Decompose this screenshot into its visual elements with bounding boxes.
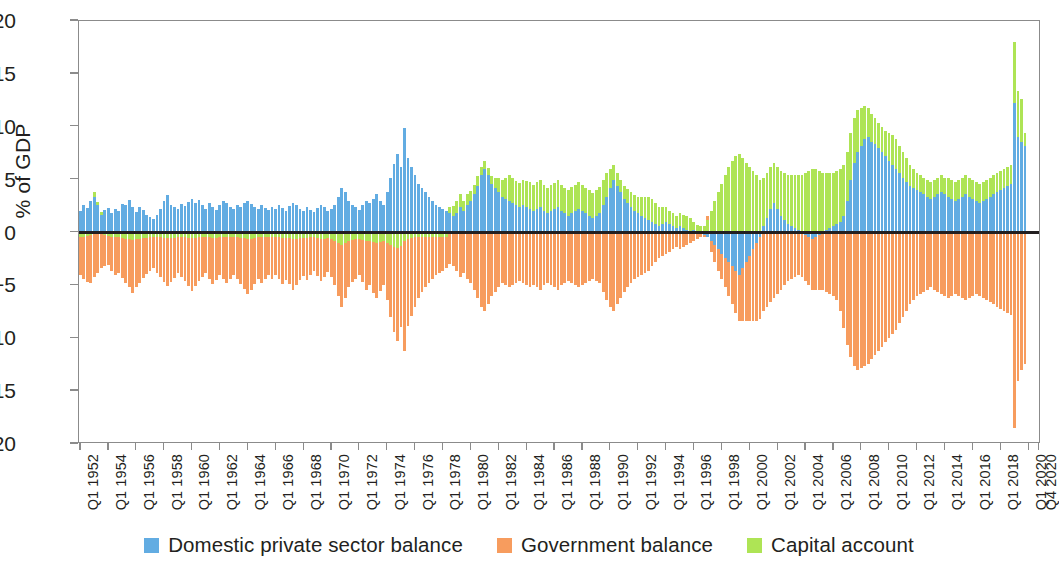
x-axis-tick-mark [693, 443, 694, 450]
y-axis-tick-mark [70, 284, 78, 285]
x-axis-tick-label: Q1 2016 [977, 454, 993, 510]
x-axis-tick-label: Q1 1974 [392, 454, 408, 510]
x-axis-tick-mark [135, 443, 136, 450]
x-axis-tick-mark [442, 443, 443, 450]
x-axis-tick-label: Q1 1980 [475, 454, 491, 510]
x-axis-tick-label: Q1 1970 [336, 454, 352, 510]
legend-item[interactable]: Domestic private sector balance [144, 533, 463, 557]
x-axis-tick-mark [386, 443, 387, 450]
x-axis-tick-label: Q1 2000 [754, 454, 770, 510]
y-axis-tick-mark [70, 442, 78, 443]
zero-baseline [79, 231, 1039, 233]
y-axis-tick-mark [70, 178, 78, 179]
x-axis-tick-mark [330, 443, 331, 450]
x-axis-tick-mark [944, 443, 945, 450]
x-axis-tick-mark [888, 443, 889, 450]
x-axis-tick-label: Q1 1978 [447, 454, 463, 510]
x-axis-tick-label: Q1 1966 [280, 454, 296, 510]
x-axis-tick-mark [219, 443, 220, 450]
x-axis-tick-label: Q1 2012 [921, 454, 937, 510]
y-axis-tick-label: −20 [0, 433, 16, 454]
y-axis-tick-label: 20 [0, 10, 16, 31]
chart-legend: Domestic private sector balanceGovernmen… [0, 533, 1058, 557]
y-axis-tick-mark [70, 337, 78, 338]
x-axis-tick-label: Q1 1976 [420, 454, 436, 510]
y-axis-tick-mark [70, 72, 78, 73]
x-axis-tick-mark [1028, 443, 1029, 450]
x-axis-tick-label: Q4 2020 [1043, 454, 1059, 510]
x-axis-tick-mark [303, 443, 304, 450]
y-axis-tick-mark [70, 389, 78, 390]
x-axis-tick-mark [553, 443, 554, 450]
x-axis-tick-mark [358, 443, 359, 450]
y-axis-tick-mark [70, 231, 78, 232]
y-axis-tick-label: 10 [0, 115, 16, 136]
legend-label: Domestic private sector balance [168, 533, 463, 557]
y-axis-tick-label: −5 [0, 274, 16, 295]
x-axis-tick-mark [1038, 443, 1039, 450]
x-axis-tick-mark [526, 443, 527, 450]
x-axis-tick-mark [498, 443, 499, 450]
x-axis-tick-label: Q1 1952 [85, 454, 101, 510]
x-axis-tick-label: Q1 1960 [196, 454, 212, 510]
x-axis-tick-mark [1000, 443, 1001, 450]
x-axis-tick-label: Q1 2008 [866, 454, 882, 510]
x-axis-tick-mark [721, 443, 722, 450]
x-axis-tick-label: Q1 1992 [643, 454, 659, 510]
x-axis-tick-mark [609, 443, 610, 450]
x-axis-tick-label: Q1 2014 [949, 454, 965, 510]
x-axis-tick-mark [163, 443, 164, 450]
y-axis-tick-mark [70, 19, 78, 20]
x-axis-tick-mark [470, 443, 471, 450]
x-axis-tick-mark [581, 443, 582, 450]
x-axis-tick-label: Q1 2010 [894, 454, 910, 510]
x-axis-tick-label: Q1 1982 [503, 454, 519, 510]
y-axis-tick-label: 5 [0, 168, 16, 189]
x-axis-tick-label: Q1 1972 [364, 454, 380, 510]
x-axis-tick-mark [804, 443, 805, 450]
x-axis-tick-label: Q1 2002 [782, 454, 798, 510]
x-axis-tick-mark [832, 443, 833, 450]
x-axis-tick-mark [665, 443, 666, 450]
x-axis-tick-mark [777, 443, 778, 450]
legend-swatch-icon [144, 538, 159, 553]
x-axis-tick-label: Q1 1984 [531, 454, 547, 510]
y-axis-tick-label: −15 [0, 380, 16, 401]
x-axis-tick-label: Q1 1962 [224, 454, 240, 510]
legend-label: Government balance [521, 533, 713, 557]
legend-label: Capital account [771, 533, 914, 557]
plot-area [78, 20, 1040, 443]
y-axis-tick-label: −10 [0, 327, 16, 348]
x-axis-tick-mark [191, 443, 192, 450]
x-axis-tick-label: Q1 1954 [113, 454, 129, 510]
x-axis-tick-mark [247, 443, 248, 450]
x-axis-tick-mark [414, 443, 415, 450]
legend-swatch-icon [497, 538, 512, 553]
x-axis-tick-mark [749, 443, 750, 450]
x-axis-tick-label: Q1 2004 [810, 454, 826, 510]
x-axis-tick-label: Q1 1990 [615, 454, 631, 510]
y-axis-tick-mark [70, 125, 78, 126]
x-axis-tick-label: Q1 2018 [1005, 454, 1021, 510]
x-axis-tick-label: Q1 1956 [141, 454, 157, 510]
x-axis-tick-mark [972, 443, 973, 450]
x-axis-tick-label: Q1 1968 [308, 454, 324, 510]
y-axis-tick-label: 0 [0, 221, 16, 242]
x-axis-tick-mark [916, 443, 917, 450]
x-axis-tick-label: Q1 2006 [838, 454, 854, 510]
x-axis-tick-mark [107, 443, 108, 450]
x-axis-tick-label: Q1 1964 [252, 454, 268, 510]
x-axis-tick-mark [637, 443, 638, 450]
legend-swatch-icon [747, 538, 762, 553]
x-axis-tick-label: Q1 1998 [726, 454, 742, 510]
x-axis-tick-label: Q1 1996 [698, 454, 714, 510]
x-axis-tick-mark [79, 443, 80, 450]
x-axis-tick-label: Q1 1958 [169, 454, 185, 510]
legend-item[interactable]: Capital account [747, 533, 914, 557]
x-axis-tick-label: Q1 1994 [671, 454, 687, 510]
x-axis-tick-mark [275, 443, 276, 450]
x-axis-tick-label: Q1 1986 [559, 454, 575, 510]
y-axis-tick-label: 15 [0, 62, 16, 83]
legend-item[interactable]: Government balance [497, 533, 713, 557]
